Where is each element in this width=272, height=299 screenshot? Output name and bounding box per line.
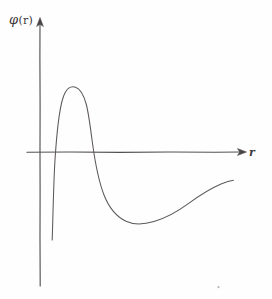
phi-symbol: φ — [9, 12, 18, 27]
potential-sketch-figure: φ(r) r — [0, 0, 272, 299]
y-axis-label: φ(r) — [9, 12, 33, 27]
potential-curve-path — [52, 87, 233, 240]
plot-canvas — [0, 0, 272, 299]
x-axis-label: r — [249, 146, 255, 159]
paper-speck-artifact — [217, 286, 219, 288]
phi-argument: (r) — [18, 14, 33, 27]
